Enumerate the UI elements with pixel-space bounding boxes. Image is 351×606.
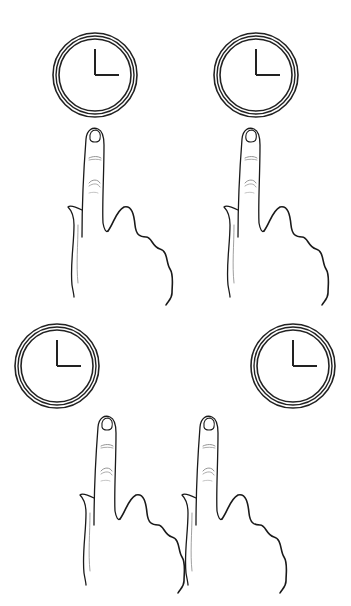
pointing-hand-icon-bottom-right <box>182 413 288 595</box>
pointing-hand-icon-top-left <box>68 125 174 307</box>
pointing-hand-icon-bottom-left <box>80 413 186 595</box>
clock-icon-bottom-right <box>250 323 336 409</box>
pointing-hand-icon-top-right <box>224 125 330 307</box>
clock-icon-bottom-left <box>14 323 100 409</box>
clock-icon-top-right <box>214 33 298 117</box>
clock-icon-top-left <box>53 33 137 117</box>
